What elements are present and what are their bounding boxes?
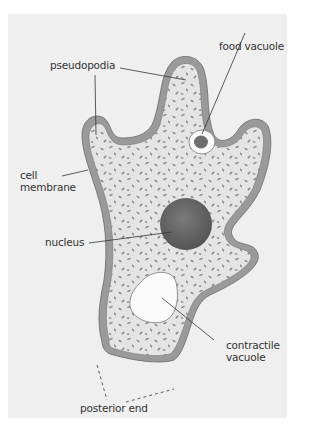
label-contractile-vacuole-line2: vacuole [226, 351, 265, 363]
label-nucleus: nucleus [45, 236, 84, 248]
posterior-end-dash-2 [126, 389, 174, 402]
label-contractile-vacuole-line1: contractile [226, 339, 280, 351]
nucleus [160, 198, 212, 250]
label-pseudopodia: pseudopodia [50, 59, 115, 71]
label-cell-membrane-line2: membrane [20, 181, 76, 193]
cell-membrane-leader [62, 170, 88, 176]
label-posterior-end: posterior end [80, 402, 148, 414]
posterior-end-dash-1 [97, 365, 107, 400]
label-food-vacuole: food vacuole [219, 40, 284, 52]
label-cell-membrane-line1: cell [20, 169, 37, 181]
